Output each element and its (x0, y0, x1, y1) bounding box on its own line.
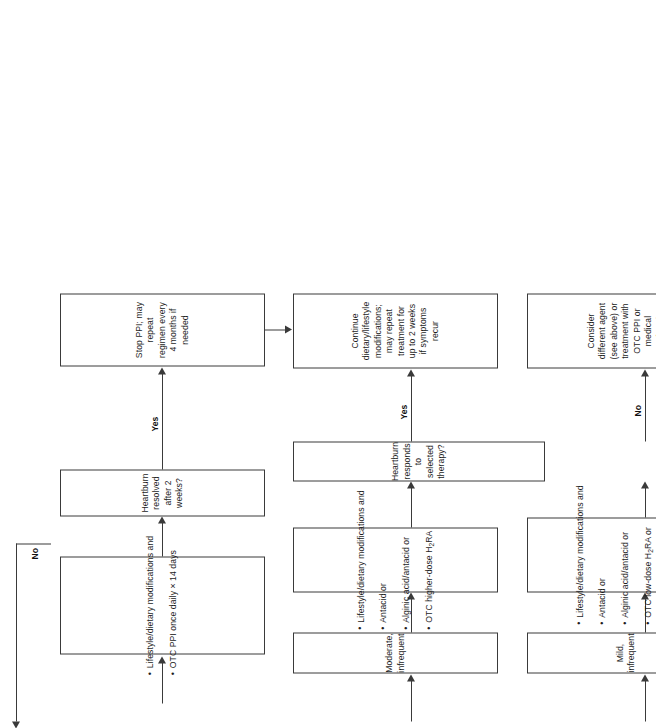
node-severity-mild[interactable]: Mild, infrequent (527, 632, 656, 673)
consider-different-text: Consider different agent (see above) or … (586, 301, 656, 360)
edge-yes-to-continue (411, 373, 412, 441)
continue-modifications-text: Continue dietary/lifestyle modifications… (350, 301, 441, 360)
arrowhead-responds-decision-bottom (641, 481, 649, 488)
node-responds-decision[interactable]: Heartburn responds to selected therapy? (293, 441, 545, 481)
severe-treatment-item-0: Lifestyle/dietary modifications and (145, 535, 156, 674)
edge-yes-to-stop-ppi (162, 371, 163, 469)
stop-ppi-text: Stop PPI; may repeat regimen every 4 mon… (134, 301, 191, 358)
severity-moderate-text: Moderate, infrequent (384, 633, 407, 673)
mild-treatment-item-2: Alginic acid/antacid or (620, 485, 631, 624)
no-feedback-arrowhead (12, 721, 20, 728)
node-moderate-treatment[interactable]: Lifestyle/dietary modifications and Anta… (293, 527, 498, 592)
no-feedback-horizontal (16, 543, 17, 721)
node-stop-ppi[interactable]: Stop PPI; may repeat regimen every 4 mon… (60, 293, 265, 366)
edge-mild-to-decision (645, 485, 646, 517)
severe-decision-text: Heartburn resolved after 2 weeks? (140, 473, 186, 512)
edge-into-moderate (411, 679, 412, 721)
arrowhead-stop-ppi (158, 367, 166, 374)
arrowhead-continue-modifications (407, 369, 415, 376)
arrowhead-continue-from-stop-ppi (285, 326, 292, 334)
severity-mild-text: Mild, infrequent (615, 633, 638, 672)
edge-label-no-bottom: No (633, 403, 643, 418)
mild-treatment-item-1: Antacid or (597, 485, 608, 624)
edge-stop-ppi-to-continue (265, 329, 287, 330)
node-mild-treatment[interactable]: Lifestyle/dietary modifications and Anta… (527, 517, 656, 592)
edge-severe-to-decision (162, 520, 163, 556)
edge-label-no-top: No (30, 546, 40, 561)
node-consider-different[interactable]: Consider different agent (see above) or … (527, 293, 656, 368)
arrowhead-moderate-severity (407, 674, 415, 681)
arrowhead-mild-severity (641, 674, 649, 681)
edge-no-to-consider (645, 373, 646, 441)
mild-treatment-item-0: Lifestyle/dietary modifications and (575, 485, 586, 624)
arrowhead-responds-decision (407, 481, 415, 488)
edge-into-mild (645, 679, 646, 721)
severe-treatment-item-1: OTC PPI once daily × 14 days (168, 535, 179, 674)
node-severe-treatment[interactable]: Lifestyle/dietary modifications and OTC … (60, 556, 265, 654)
responds-decision-text: Heartburn responds to selected therapy? (390, 441, 447, 480)
moderate-treatment-item-0: Lifestyle/dietary modifications and (356, 490, 367, 629)
node-continue-modifications[interactable]: Continue dietary/lifestyle modifications… (293, 293, 498, 368)
moderate-treatment-item-1: Antacid or (378, 490, 389, 629)
moderate-treatment-item-3: OTC higher-dose H2RA (424, 490, 435, 629)
no-feedback-vertical (16, 543, 51, 544)
arrowhead-consider-different (641, 369, 649, 376)
edge-moderate-to-decision (411, 485, 412, 527)
node-severity-moderate[interactable]: Moderate, infrequent (293, 632, 498, 673)
edge-label-yes-top: Yes (150, 414, 160, 433)
arrowhead-severe-decision (158, 516, 166, 523)
node-severe-decision[interactable]: Heartburn resolved after 2 weeks? (60, 469, 265, 516)
edge-label-yes-middle: Yes (399, 402, 409, 421)
